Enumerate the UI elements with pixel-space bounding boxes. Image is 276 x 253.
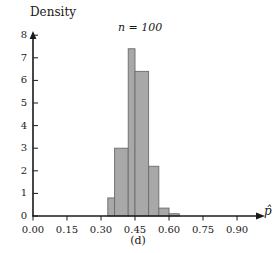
- histogram-bar: [149, 166, 159, 216]
- y-tick-label: 1: [11, 188, 27, 198]
- bar-group: [108, 49, 179, 216]
- x-axis-arrowhead: [256, 213, 265, 220]
- y-tick-label: 6: [11, 75, 27, 85]
- y-tick-label: 7: [11, 53, 27, 63]
- y-tick-label: 8: [11, 30, 27, 40]
- y-tick-label: 0: [11, 211, 27, 221]
- histogram-bar: [108, 198, 115, 216]
- histogram-bar: [135, 71, 149, 216]
- y-tick-label: 2: [11, 166, 27, 176]
- histogram-bar: [159, 208, 169, 216]
- histogram-plot-area: [0, 0, 276, 253]
- histogram-bar: [115, 148, 129, 216]
- histogram-figure: Density n = 100 p̂ (d) 012345678 0.000.1…: [0, 0, 276, 253]
- histogram-bar: [128, 49, 135, 216]
- y-tick-label: 5: [11, 98, 27, 108]
- y-tick-label: 3: [11, 143, 27, 153]
- y-tick-label: 4: [11, 121, 27, 131]
- x-tick-label: 0.90: [217, 225, 257, 235]
